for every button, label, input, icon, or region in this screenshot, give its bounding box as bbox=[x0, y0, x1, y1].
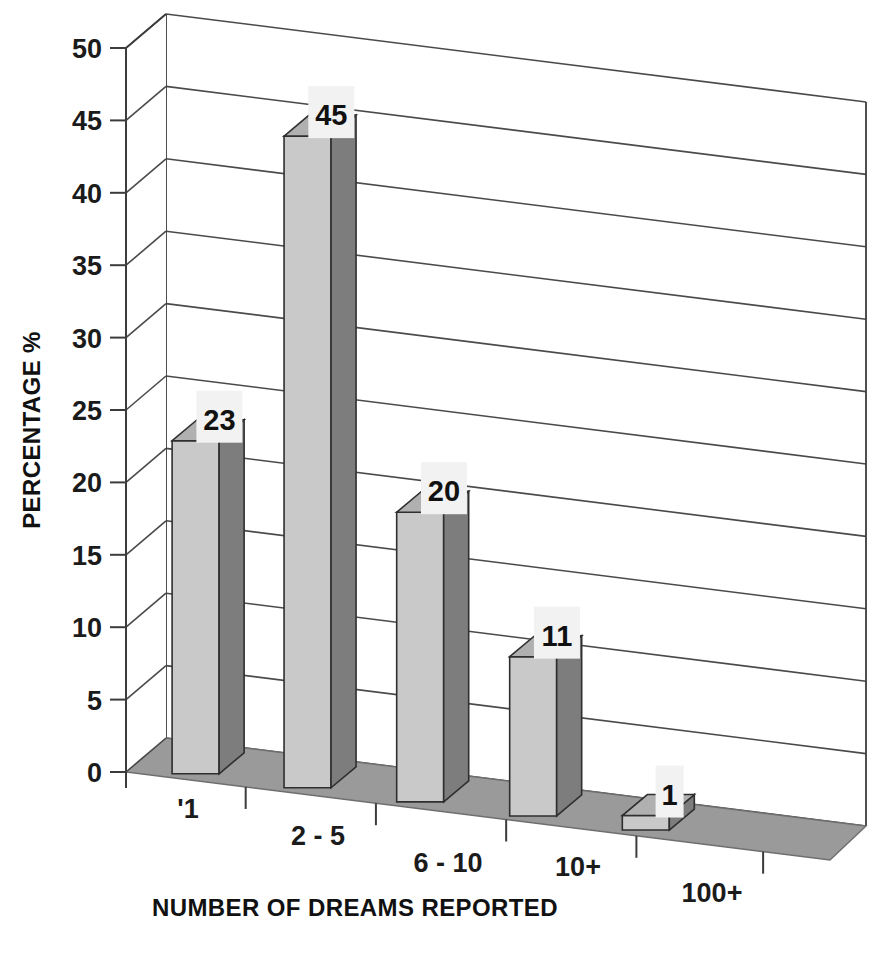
y-tick-label: 40 bbox=[72, 179, 102, 209]
bar-side-face bbox=[331, 115, 356, 788]
x-category-label-0: '1 bbox=[177, 794, 198, 824]
data-label-value: 20 bbox=[428, 475, 460, 507]
y-tick-label: 10 bbox=[72, 613, 102, 643]
y-axis: 05101520253035404550 bbox=[72, 34, 126, 788]
x-axis-title: NUMBER OF DREAMS REPORTED bbox=[152, 894, 558, 921]
bar-side-face bbox=[444, 491, 469, 802]
y-tick-label: 0 bbox=[87, 758, 102, 788]
bar-column bbox=[510, 636, 582, 816]
y-tick-label: 30 bbox=[72, 324, 102, 354]
data-label-value: 23 bbox=[203, 404, 235, 436]
bar-front-face bbox=[172, 441, 219, 774]
y-tick-label: 5 bbox=[87, 686, 102, 716]
data-label-value: 45 bbox=[315, 99, 347, 131]
y-tick-label: 25 bbox=[72, 396, 102, 426]
bar-column bbox=[172, 420, 244, 774]
data-label-value: 1 bbox=[662, 779, 678, 811]
y-tick-label: 20 bbox=[72, 468, 102, 498]
bar-front-face bbox=[510, 657, 557, 816]
bar-side-face bbox=[557, 636, 582, 816]
y-tick-label: 50 bbox=[72, 34, 102, 64]
bar-chart-3d: 05101520253035404550 '12 - 56 - 1010+100… bbox=[0, 0, 886, 954]
data-label-value: 11 bbox=[542, 620, 573, 652]
chart-container: 05101520253035404550 '12 - 56 - 1010+100… bbox=[0, 0, 886, 954]
x-category-label-2: 6 - 10 bbox=[413, 848, 482, 878]
chart-left-wall bbox=[126, 14, 166, 772]
bar-column bbox=[397, 491, 469, 802]
bar-front-face bbox=[284, 136, 331, 788]
y-tick-label: 35 bbox=[72, 251, 102, 281]
x-category-label-1: 2 - 5 bbox=[291, 821, 345, 851]
bar-side-face bbox=[219, 420, 244, 774]
y-tick-label: 45 bbox=[72, 106, 102, 136]
x-category-label-3: 10+ bbox=[555, 852, 601, 882]
x-category-label-4: 100+ bbox=[682, 878, 743, 908]
bar-front-face bbox=[397, 512, 444, 802]
bar-front-face bbox=[622, 816, 669, 830]
bar-column bbox=[284, 115, 356, 788]
y-tick-label: 15 bbox=[72, 541, 102, 571]
y-axis-title: PERCENTAGE % bbox=[18, 331, 45, 529]
